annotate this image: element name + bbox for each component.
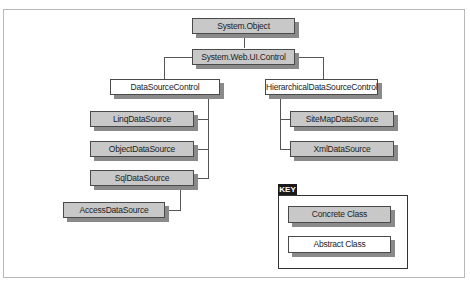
edge-control-to-dsc-v: [164, 57, 165, 79]
edge-dsc-to-sql: [194, 178, 208, 179]
edge-control-to-dsc-h: [164, 57, 192, 58]
dsc-trunk: [208, 95, 209, 179]
node-linq-datasource: LinqDataSource: [90, 111, 194, 127]
node-sitemap-datasource: SiteMapDataSource: [290, 111, 394, 127]
edge-control-to-hdsc-v: [323, 57, 324, 79]
node-hierarchical-datasource-control: HierarchicalDataSourceControl: [265, 79, 378, 95]
edge-dsc-to-linq: [194, 119, 208, 120]
key-concrete-class: Concrete Class: [288, 206, 391, 223]
edge-control-to-hdsc-h: [295, 57, 324, 58]
node-sql-datasource: SqlDataSource: [90, 170, 194, 186]
node-system-object: System.Object: [192, 18, 295, 34]
edge-object-to-control: [244, 34, 245, 48]
node-system-web-ui-control: System.Web.UI.Control: [192, 49, 295, 65]
node-datasource-control: DataSourceControl: [110, 79, 220, 95]
node-xml-datasource: XmlDataSource: [290, 141, 394, 157]
edge-sql-to-access-v: [180, 186, 181, 210]
edge-sql-to-access-h: [165, 210, 181, 211]
hdsc-trunk: [280, 95, 281, 149]
edge-hdsc-to-xml: [280, 149, 290, 150]
edge-dsc-to-object: [194, 149, 208, 150]
node-object-datasource: ObjectDataSource: [90, 141, 194, 157]
key-abstract-class: Abstract Class: [288, 236, 391, 253]
node-access-datasource: AccessDataSource: [63, 202, 165, 218]
edge-hdsc-to-sitemap: [280, 119, 290, 120]
